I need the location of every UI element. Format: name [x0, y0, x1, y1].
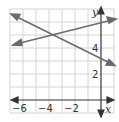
y-tick-label: 4 — [92, 43, 98, 54]
coordinate-graph: −6 −4 −2 2 4 x y — [0, 0, 119, 122]
graph-svg: −6 −4 −2 2 4 x y — [0, 0, 119, 122]
y-axis-label: y — [91, 6, 99, 19]
x-axis-label: x — [105, 103, 112, 116]
x-tick-label: −2 — [64, 103, 79, 114]
x-tick-label: −6 — [12, 103, 27, 114]
y-tick-label: 2 — [92, 69, 98, 80]
x-tick-label: −4 — [38, 103, 53, 114]
grid — [10, 9, 114, 113]
